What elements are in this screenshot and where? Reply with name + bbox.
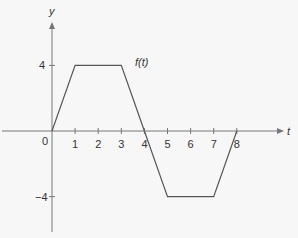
chart: ty0123456784−4f(t) <box>0 0 298 238</box>
x-tick-label: 3 <box>118 138 124 150</box>
x-tick-label: 6 <box>188 138 194 150</box>
y-axis-arrow-icon <box>49 22 55 29</box>
x-tick-label: 0 <box>42 135 48 147</box>
x-axis-label: t <box>287 125 291 137</box>
y-axis-label: y <box>48 5 56 17</box>
y-tick-label: −4 <box>35 191 48 203</box>
x-axis-arrow-icon <box>277 128 284 134</box>
x-tick-label: 1 <box>72 138 78 150</box>
x-tick-label: 2 <box>95 138 101 150</box>
x-tick-label: 8 <box>234 138 240 150</box>
x-tick-label: 5 <box>165 138 171 150</box>
curve-label: f(t) <box>135 56 149 68</box>
y-tick-label: 4 <box>39 59 45 71</box>
x-tick-label: 7 <box>211 138 217 150</box>
x-tick-label: 4 <box>141 138 147 150</box>
